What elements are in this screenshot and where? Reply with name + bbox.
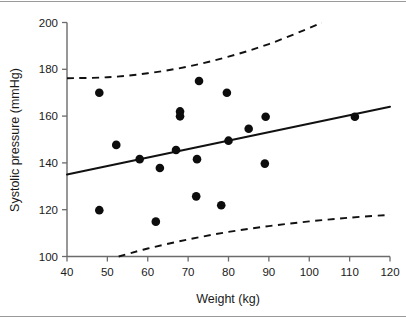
- scatter-plot-figure: 100120140160180200 405060708090100110120…: [0, 0, 406, 318]
- y-tick-label: 140: [39, 157, 58, 169]
- data-point: [152, 217, 161, 226]
- data-point: [193, 155, 202, 164]
- data-point: [244, 124, 253, 133]
- data-point: [172, 146, 181, 155]
- plot-canvas: 100120140160180200 405060708090100110120…: [0, 0, 406, 318]
- data-point: [261, 113, 270, 122]
- data-point: [112, 141, 121, 150]
- x-tick-label: 80: [222, 266, 235, 278]
- data-point: [223, 88, 232, 97]
- upper-prediction-limit-curve: [67, 23, 321, 79]
- data-point: [217, 201, 226, 210]
- data-point: [261, 159, 270, 168]
- x-tick-label: 90: [262, 266, 275, 278]
- x-tick-label: 70: [182, 266, 195, 278]
- data-point: [224, 136, 233, 145]
- y-axis-title: Systolic pressure (mmHg): [8, 68, 22, 212]
- data-point: [95, 88, 104, 97]
- data-point: [195, 77, 204, 86]
- data-point: [192, 192, 201, 201]
- y-tick-label: 200: [39, 17, 58, 29]
- x-tick-label: 40: [61, 266, 74, 278]
- x-tick-label: 120: [380, 266, 399, 278]
- y-axis-ticks: 100120140160180200: [39, 17, 67, 263]
- y-tick-label: 120: [39, 204, 58, 216]
- y-tick-label: 180: [39, 63, 58, 75]
- x-tick-label: 100: [300, 266, 319, 278]
- data-point: [135, 155, 144, 164]
- x-tick-label: 110: [340, 266, 358, 278]
- data-point: [156, 164, 165, 173]
- y-tick-label: 160: [39, 110, 58, 122]
- x-axis-title: Weight (kg): [196, 292, 260, 306]
- x-tick-label: 50: [101, 266, 114, 278]
- x-axis-ticks: 405060708090100110120: [61, 257, 400, 278]
- y-tick-label: 100: [39, 251, 58, 263]
- data-points-group: [95, 77, 359, 226]
- data-point: [176, 107, 185, 116]
- data-point: [95, 206, 104, 215]
- data-point: [351, 113, 360, 122]
- x-tick-label: 60: [141, 266, 154, 278]
